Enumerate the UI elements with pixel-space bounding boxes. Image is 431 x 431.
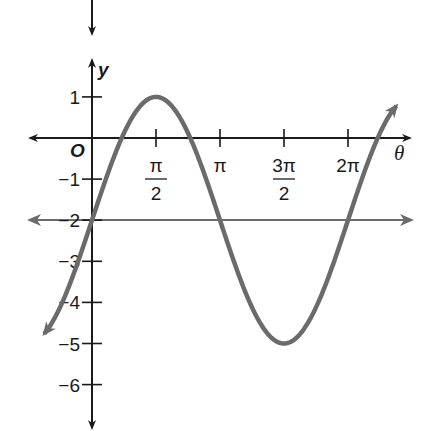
y-tick-label: −1 xyxy=(58,169,80,190)
chart-canvas: π2π3π22π1−1−2−3−4−5−6 y θ O xyxy=(0,0,431,431)
y-axis-label: y xyxy=(97,59,110,80)
x-tick-label: π xyxy=(213,155,226,176)
x-tick-label: π xyxy=(149,155,162,176)
x-tick-label-den: 2 xyxy=(151,183,162,204)
y-tick-label: −2 xyxy=(58,210,80,231)
origin-label: O xyxy=(70,140,85,161)
y-tick-label: −6 xyxy=(58,375,80,396)
x-tick-label: 3π xyxy=(272,155,296,176)
y-tick-label: 1 xyxy=(69,87,80,108)
axis-labels: π2π3π22π1−1−2−3−4−5−6 xyxy=(58,87,360,396)
sine-graph: π2π3π22π1−1−2−3−4−5−6 y θ O xyxy=(0,0,431,431)
curve-arrow-right xyxy=(392,106,396,112)
y-tick-label: −5 xyxy=(58,334,80,355)
x-axis-label: θ xyxy=(394,141,404,165)
x-tick-label: 2π xyxy=(336,155,360,176)
curve-arrow-left xyxy=(44,329,48,334)
x-tick-label-den: 2 xyxy=(279,183,290,204)
